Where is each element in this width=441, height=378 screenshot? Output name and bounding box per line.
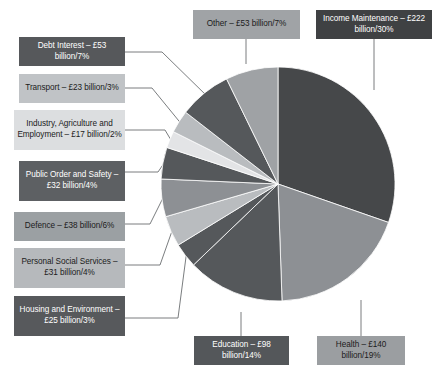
connector-transport [125, 88, 180, 122]
callout-health[interactable]: Health – £140 billion/19% [317, 336, 405, 365]
callout-public-order-and-safety[interactable]: Public Order and Safety – £32 billion/4% [19, 161, 125, 201]
callout-debt-interest[interactable]: Debt Interest – £53 billion/7% [19, 37, 125, 66]
callout-housing-and-environment[interactable]: Housing and Environment – £25 billion/3% [14, 296, 125, 336]
connector-personal-social-services [125, 231, 172, 265]
callout-industry-agriculture-and-employment[interactable]: Industry, Agriculture and Employment – £… [14, 110, 125, 150]
connector-industry-agriculture-and-employment [125, 130, 171, 140]
pie-slices-group [161, 67, 395, 301]
connector-housing-and-environment [125, 255, 186, 318]
callout-personal-social-services[interactable]: Personal Social Services – £31 billion/4… [14, 248, 125, 288]
callout-transport[interactable]: Transport – £23 billion/3% [19, 74, 125, 103]
callout-other[interactable]: Other – £53 billion/7% [193, 10, 300, 39]
callout-defence[interactable]: Defence – £38 billion/6% [14, 212, 125, 241]
connector-public-order-and-safety [125, 163, 164, 172]
connector-defence [125, 198, 163, 224]
pie-chart-figure: Other – £53 billion/7% Income Maintenanc… [0, 0, 441, 378]
callout-income-maintenance[interactable]: Income Maintenance – £222 billion/30% [316, 10, 432, 39]
callout-education[interactable]: Education – £98 billion/14% [194, 336, 289, 365]
